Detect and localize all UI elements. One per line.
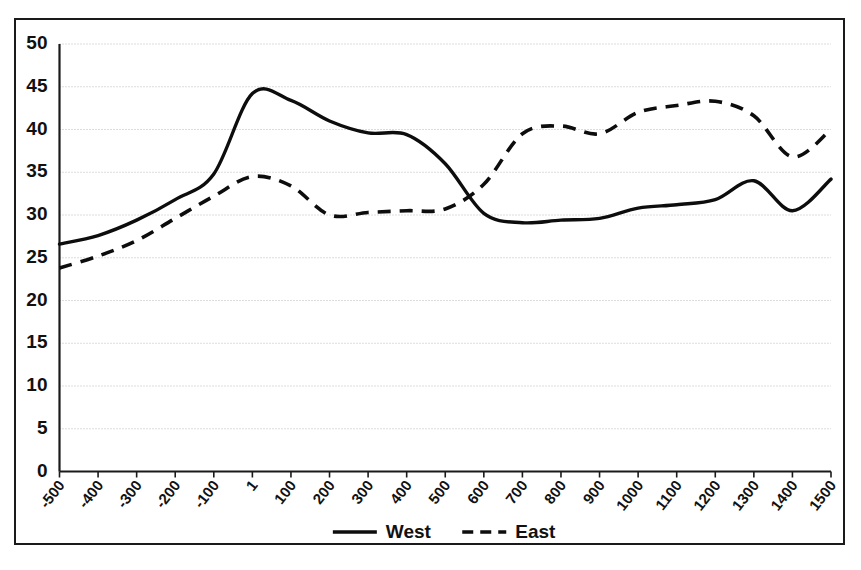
y-tick-label: 5	[37, 417, 48, 438]
y-tick-label: 10	[26, 374, 47, 395]
y-tick-label: 30	[26, 203, 47, 224]
y-tick-label: 25	[26, 246, 48, 267]
x-tick-label: 1	[242, 477, 261, 494]
y-tick-label: 40	[26, 118, 47, 139]
chart-legend: WestEast	[333, 521, 556, 542]
x-tick-label: 700	[502, 477, 531, 507]
line-chart: 05101520253035404550 -500-400-300-200-10…	[0, 0, 861, 570]
x-tick-label: 100	[271, 477, 300, 507]
x-tick-label: 1000	[613, 477, 647, 514]
x-tick-label: -500	[36, 477, 68, 511]
x-tick-label: 600	[463, 477, 492, 507]
axes	[60, 44, 832, 472]
x-tick-label: -300	[113, 477, 145, 511]
legend-label-west: West	[386, 521, 432, 542]
y-tick-label: 45	[26, 75, 48, 96]
x-tick-label: 1400	[767, 477, 801, 514]
x-tick-label: -400	[75, 477, 107, 511]
legend-label-east: East	[515, 521, 556, 542]
x-tick-label: 1500	[805, 477, 839, 514]
x-tick-label: 200	[309, 477, 338, 507]
x-tick-label: 1300	[728, 477, 762, 514]
y-tick-label: 20	[26, 289, 47, 310]
data-series	[60, 89, 832, 268]
x-tick-label: 900	[579, 477, 608, 507]
y-tick-label: 50	[26, 32, 47, 53]
series-line-west	[60, 89, 832, 244]
y-tick-label: 15	[26, 331, 48, 352]
series-line-east	[60, 101, 832, 268]
x-tick-label: -100	[190, 477, 222, 511]
x-axis-ticks	[60, 472, 832, 478]
x-tick-label: 400	[386, 477, 415, 507]
x-axis-tick-labels: -500-400-300-200-10011002003004005006007…	[36, 477, 839, 514]
x-tick-label: -200	[152, 477, 184, 511]
x-tick-label: 1100	[652, 477, 685, 513]
y-tick-label: 35	[26, 160, 48, 181]
y-tick-label: 0	[37, 460, 48, 481]
x-tick-label: 500	[425, 477, 454, 507]
x-tick-label: 1200	[690, 477, 724, 514]
x-tick-label: 300	[348, 477, 377, 507]
y-axis-tick-labels: 05101520253035404550	[26, 32, 48, 481]
x-tick-label: 800	[541, 477, 570, 507]
